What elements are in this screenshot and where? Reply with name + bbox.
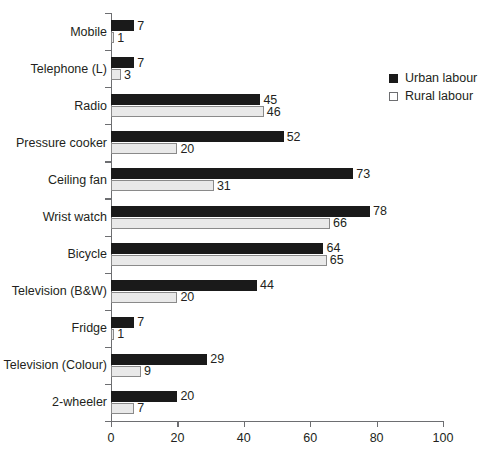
bar-urban: [111, 20, 134, 31]
bar-value-urban: 44: [260, 280, 274, 291]
bar-value-urban: 78: [373, 206, 387, 217]
bar-value-rural: 1: [117, 329, 124, 340]
bar-rural: [111, 329, 114, 340]
bar-rural: [111, 32, 114, 43]
bar-urban: [111, 243, 323, 254]
bar-rural: [111, 143, 177, 154]
bar-rural: [111, 69, 121, 80]
x-axis-tick: [244, 421, 245, 427]
y-axis-tick: [105, 87, 111, 88]
bar-chart: 020406080100 MobileTelephone (L)RadioPre…: [0, 0, 479, 460]
category-label: Telephone (L): [31, 62, 107, 75]
bar-value-rural: 9: [144, 366, 151, 377]
bar-rural: [111, 255, 327, 266]
bar-value-urban: 20: [180, 391, 194, 402]
bar-value-rural: 3: [124, 70, 131, 81]
bar-urban: [111, 57, 134, 68]
x-axis-tick-label: 100: [433, 431, 454, 445]
bar-urban: [111, 131, 284, 142]
bar-value-rural: 1: [117, 33, 124, 44]
category-label: Wrist watch: [43, 211, 107, 224]
bar-urban: [111, 391, 177, 402]
bar-urban: [111, 206, 370, 217]
category-label: Fridge: [72, 322, 107, 335]
bar-value-rural: 7: [137, 403, 144, 414]
bar-rural: [111, 292, 177, 303]
bar-value-rural: 66: [333, 218, 347, 229]
y-axis-tick: [105, 347, 111, 348]
bar-rural: [111, 180, 214, 191]
bar-urban: [111, 94, 260, 105]
x-axis-tick: [443, 421, 444, 427]
bar-rural: [111, 218, 330, 229]
bar-value-rural: 31: [217, 181, 231, 192]
bar-value-rural: 20: [180, 292, 194, 303]
bar-urban: [111, 354, 207, 365]
y-axis-tick: [105, 198, 111, 199]
bar-rural: [111, 106, 264, 117]
x-axis-tick-label: 60: [303, 431, 317, 445]
y-axis-tick: [105, 310, 111, 311]
x-axis-tick: [310, 421, 311, 427]
category-label: Television (B&W): [12, 285, 107, 298]
category-label: Mobile: [70, 25, 107, 38]
legend-label-urban: Urban labour: [405, 71, 477, 85]
bar-value-urban: 7: [137, 58, 144, 69]
bar-value-urban: 52: [287, 132, 301, 143]
y-axis-tick: [105, 273, 111, 274]
bar-value-urban: 7: [137, 317, 144, 328]
legend-item-rural: Rural labour: [389, 87, 477, 105]
category-label: Radio: [74, 99, 107, 112]
chart-legend: Urban labour Rural labour: [389, 69, 477, 105]
y-axis-tick: [105, 13, 111, 14]
bar-value-urban: 29: [210, 354, 224, 365]
bar-value-rural: 65: [330, 255, 344, 266]
y-axis-tick: [105, 236, 111, 237]
x-axis-tick: [377, 421, 378, 427]
legend-item-urban: Urban labour: [389, 69, 477, 87]
bar-rural: [111, 366, 141, 377]
y-axis-tick: [105, 124, 111, 125]
category-label: 2-wheeler: [52, 396, 107, 409]
category-label: Bicycle: [67, 248, 107, 261]
x-axis-tick: [111, 421, 112, 427]
bar-rural: [111, 403, 134, 414]
bar-urban: [111, 168, 353, 179]
category-label: Pressure cooker: [16, 136, 107, 149]
x-axis-tick-label: 80: [370, 431, 384, 445]
open-square-icon: [389, 92, 398, 101]
category-label: Television (Colour): [3, 359, 107, 372]
x-axis-line: [105, 421, 444, 422]
x-axis-tick: [177, 421, 178, 427]
filled-square-icon: [389, 74, 398, 83]
category-label: Ceiling fan: [48, 173, 107, 186]
bar-value-rural: 46: [267, 107, 281, 118]
bar-value-urban: 7: [137, 21, 144, 32]
x-axis-tick-label: 0: [108, 431, 115, 445]
y-axis-tick: [105, 384, 111, 385]
legend-label-rural: Rural labour: [405, 89, 473, 103]
bar-urban: [111, 280, 257, 291]
bar-urban: [111, 317, 134, 328]
bar-value-urban: 73: [356, 169, 370, 180]
y-axis-tick: [105, 161, 111, 162]
y-axis-tick: [105, 50, 111, 51]
bar-value-rural: 20: [180, 144, 194, 155]
x-axis-tick-label: 20: [170, 431, 184, 445]
x-axis-tick-label: 40: [237, 431, 251, 445]
